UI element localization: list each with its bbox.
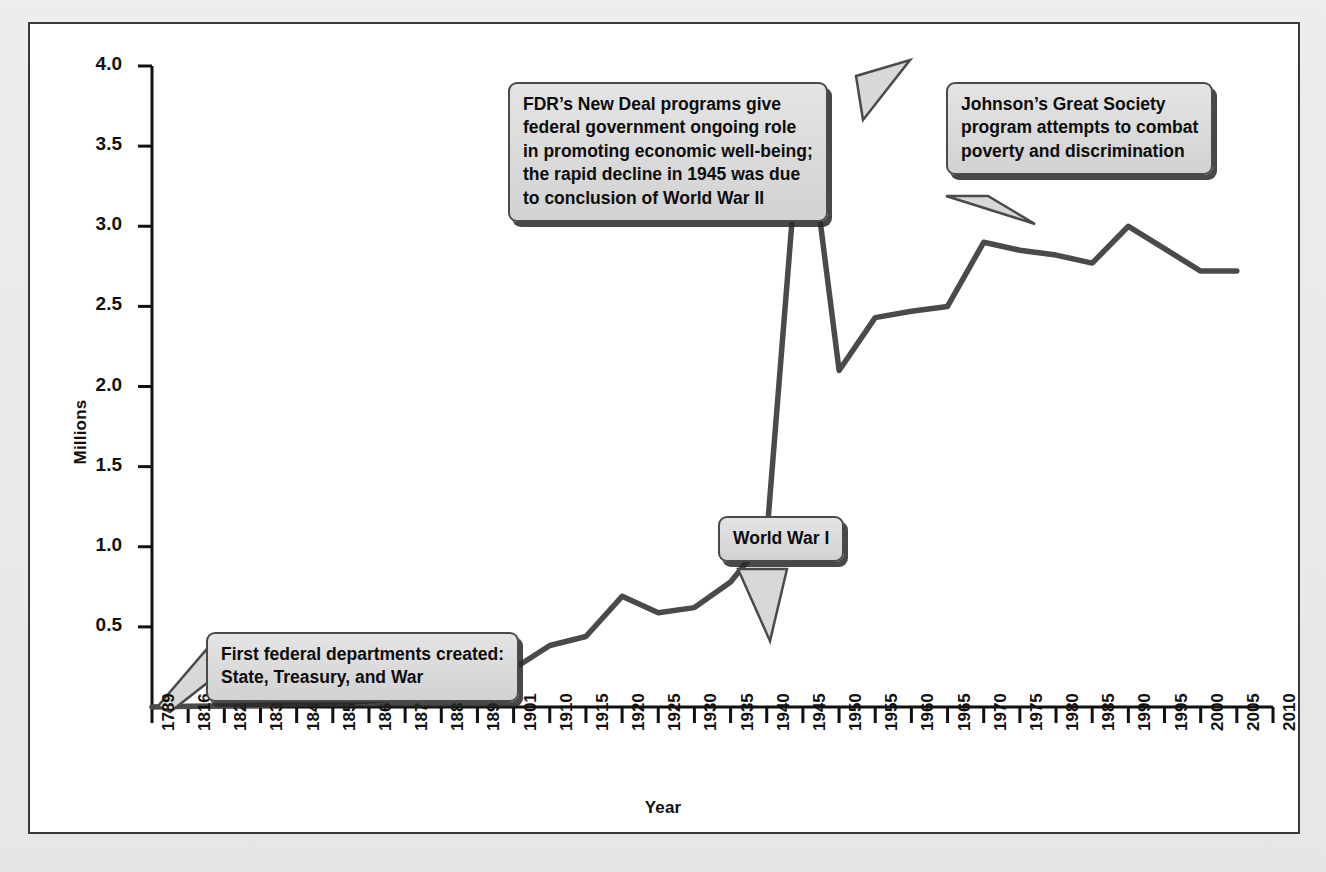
- callout-line: federal government ongoing role: [523, 116, 813, 139]
- x-tick-label: 2000: [1208, 693, 1228, 731]
- x-axis-label: Year: [0, 798, 1326, 818]
- callout-world-war-one: World War I: [718, 516, 844, 562]
- x-tick-label: 1925: [665, 693, 685, 731]
- y-tick-marks: [138, 66, 152, 627]
- y-tick-label: 3.5: [62, 133, 122, 155]
- callout-first-federal-departments: First federal departments created:State,…: [206, 632, 519, 702]
- y-tick-label: 2.5: [62, 293, 122, 315]
- callout-line: program attempts to combat: [961, 116, 1198, 139]
- callout-line: FDR’s New Deal programs give: [523, 93, 813, 116]
- y-tick-label: 2.0: [62, 374, 122, 396]
- x-tick-label: 1945: [810, 693, 830, 731]
- x-tick-label: 1920: [629, 693, 649, 731]
- callout-line: to conclusion of World War II: [523, 187, 813, 210]
- callout-fdr-new-deal: FDR’s New Deal programs givefederal gove…: [508, 82, 828, 222]
- callout-line: the rapid decline in 1945 was due: [523, 163, 813, 186]
- page-background: Millions 0.51.01.52.02.53.03.54.0 178918…: [0, 0, 1326, 872]
- x-tick-label: 1915: [593, 693, 613, 731]
- x-tick-label: 1940: [774, 693, 794, 731]
- leader-fdr: [856, 60, 910, 120]
- x-tick-label: 1970: [991, 693, 1011, 731]
- y-tick-label: 1.0: [62, 534, 122, 556]
- x-tick-label: 1980: [1063, 693, 1083, 731]
- x-tick-label: 1965: [955, 693, 975, 731]
- x-tick-label: 1935: [738, 693, 758, 731]
- x-tick-label: 1960: [918, 693, 938, 731]
- leader-johnson: [946, 196, 1035, 224]
- x-tick-label: 1930: [701, 693, 721, 731]
- x-tick-label: 1901: [521, 693, 541, 731]
- leader-world-war-one: [738, 569, 787, 641]
- callout-line: World War I: [733, 527, 829, 550]
- callout-line: poverty and discrimination: [961, 140, 1198, 163]
- chart-frame: Millions 0.51.01.52.02.53.03.54.0 178918…: [28, 22, 1300, 834]
- y-tick-label: 1.5: [62, 454, 122, 476]
- x-tick-label: 1910: [557, 693, 577, 731]
- x-tick-label: 2010: [1280, 693, 1300, 731]
- x-tick-label: 1975: [1027, 693, 1047, 731]
- x-tick-label: 1955: [882, 693, 902, 731]
- callout-line: Johnson’s Great Society: [961, 93, 1198, 116]
- x-tick-label: 1985: [1099, 693, 1119, 731]
- x-tick-label: 1950: [846, 693, 866, 731]
- callout-line: State, Treasury, and War: [221, 666, 504, 689]
- x-tick-label: 1789: [159, 693, 179, 731]
- y-tick-label: 0.5: [62, 614, 122, 636]
- callout-line: First federal departments created:: [221, 643, 504, 666]
- x-tick-label: 1995: [1172, 693, 1192, 731]
- callout-johnson-great-society: Johnson’s Great Societyprogram attempts …: [946, 82, 1213, 175]
- y-tick-label: 3.0: [62, 213, 122, 235]
- x-tick-label: 2005: [1244, 693, 1264, 731]
- x-tick-label: 1990: [1135, 693, 1155, 731]
- y-tick-label: 4.0: [62, 53, 122, 75]
- callout-line: in promoting economic well-being;: [523, 140, 813, 163]
